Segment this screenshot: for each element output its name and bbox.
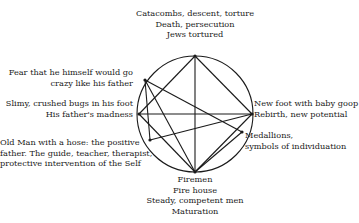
label-slimy-bugs: Slimy, crushed bugs in his foot His fath…	[0, 98, 133, 119]
chord-bottom-medallions	[195, 132, 242, 172]
chord-fear-oldman	[145, 80, 150, 140]
label-catacombs: Catacombs, descent, torture Death, perse…	[122, 8, 268, 40]
chord-slimy-bottom	[139, 114, 195, 172]
node-slimy	[137, 112, 140, 115]
node-oldman	[148, 138, 151, 141]
chord-top-right	[195, 56, 252, 114]
chord-lines	[139, 56, 252, 172]
label-firemen: Firemen Fire house Steady, competent men…	[135, 174, 255, 216]
node-top	[193, 54, 196, 57]
label-medallions: Medallions, symbols of individuation	[245, 130, 346, 151]
node-fear	[143, 78, 146, 81]
label-new-foot: New foot with baby goop Rebirth, new pot…	[254, 98, 358, 119]
label-old-man: Old Man with a hose: the positive father…	[0, 137, 139, 169]
node-medallions	[240, 130, 243, 133]
label-fear: Fear that he himself would go crazy like…	[0, 67, 133, 88]
